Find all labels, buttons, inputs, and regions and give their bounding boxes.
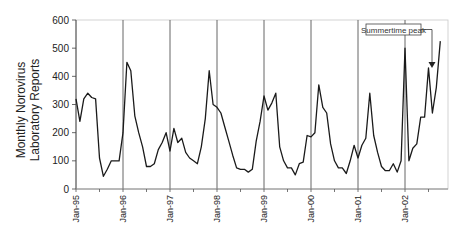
- plot-area: [76, 20, 448, 189]
- annotation-connector: [421, 30, 432, 64]
- y-tick-label: 100: [52, 155, 69, 166]
- data-line: [76, 41, 440, 176]
- y-tick-label: 400: [52, 71, 69, 82]
- y-tick-label: 200: [52, 127, 69, 138]
- x-tick-label: Jan-00: [306, 195, 316, 223]
- x-tick-label: Jan-96: [118, 195, 128, 223]
- y-tick-label: 0: [63, 184, 69, 195]
- y-axis: 0100200300400500600: [52, 15, 76, 195]
- line-chart: 0100200300400500600 Jan-95Jan-96Jan-97Ja…: [0, 0, 470, 239]
- x-tick-label: Jan-01: [353, 195, 363, 223]
- arrowhead-icon: [429, 62, 436, 68]
- x-tick-label: Jan-98: [212, 195, 222, 223]
- x-axis: Jan-95Jan-96Jan-97Jan-98Jan-99Jan-00Jan-…: [71, 189, 448, 223]
- annotation-label: Summertime peak: [361, 26, 427, 35]
- y-tick-label: 300: [52, 99, 69, 110]
- y-tick-label: 500: [52, 43, 69, 54]
- plot-border: [76, 20, 448, 189]
- x-tick-label: Jan-97: [165, 195, 175, 223]
- annotation-callout: Summertime peak: [361, 24, 435, 68]
- x-tick-label: Jan-02: [400, 195, 410, 223]
- x-tick-label: Jan-99: [259, 195, 269, 223]
- x-tick-label: Jan-95: [71, 195, 81, 223]
- vertical-gridlines: [123, 20, 405, 189]
- y-tick-label: 600: [52, 15, 69, 26]
